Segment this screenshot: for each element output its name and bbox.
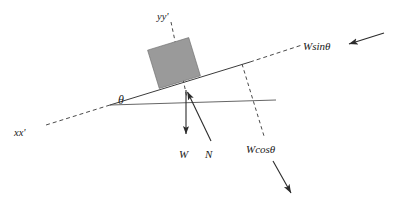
- angle-theta-label: θ: [118, 93, 124, 107]
- axis-yy-label: yy': [156, 11, 169, 22]
- wcos-theta-direction-arrow: [273, 161, 291, 193]
- inclined-plane-diagram: xx' yy' θ W N Wsinθ Wcosθ: [0, 0, 395, 207]
- normal-force-label: N: [204, 148, 213, 160]
- weight-label: W: [179, 148, 189, 160]
- incline-dashed-upper-extension: [250, 45, 302, 62]
- wcos-perpendicular-dashed-line: [242, 64, 264, 136]
- wsin-theta-direction-arrow: [349, 33, 384, 44]
- normal-force-vector-arrow: [188, 92, 212, 141]
- weight-perpendicular-component-label: Wcosθ: [246, 143, 276, 155]
- weight-parallel-component-label: Wsinθ: [303, 40, 331, 52]
- axis-xx-label: xx': [13, 127, 26, 138]
- incline-dashed-lower-extension: [46, 105, 110, 125]
- block-group: [148, 38, 201, 89]
- block-on-incline: [148, 38, 201, 89]
- physics-diagram-canvas: xx' yy' θ W N Wsinθ Wcosθ: [0, 0, 395, 207]
